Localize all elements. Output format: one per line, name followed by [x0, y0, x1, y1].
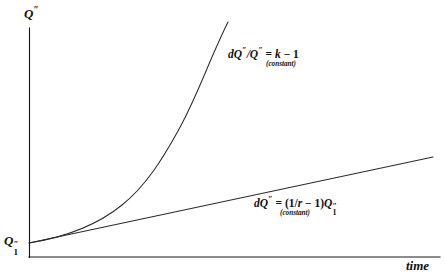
lin-eq-minus-one: − 1) — [302, 197, 324, 209]
exponential-growth-curve — [29, 22, 228, 243]
y-axis-label: Q″ — [24, 6, 39, 20]
linear-growth-line — [29, 157, 433, 243]
growth-diagram-figure: Q″ time Q ″ 1 dQ″/Q″ = k − 1 (constant) … — [0, 0, 445, 275]
lin-eq-q1: Q — [260, 197, 268, 209]
lin-eq-equals: = (1/ — [273, 197, 298, 209]
lin-eq-subscript: 1 — [332, 209, 336, 217]
x-axis-label: time — [406, 259, 429, 272]
lin-eq-q2: Q — [324, 197, 332, 209]
exp-eq-minus-one: − 1 — [281, 48, 299, 60]
origin-label-subscript: 1 — [13, 248, 18, 257]
exp-eq-equals: = — [263, 48, 275, 60]
exponential-equation: dQ″/Q″ = k − 1 — [228, 47, 299, 60]
origin-label-q: Q — [4, 233, 13, 248]
linear-equation: dQ″ = (1/r − 1)Q″1 — [254, 196, 340, 209]
exp-eq-q1: Q — [234, 48, 242, 60]
exponential-curve-annotation: dQ″/Q″ = k − 1 (constant) — [228, 47, 299, 69]
plot-canvas — [0, 0, 445, 275]
linear-qualifier: (constant) — [280, 210, 340, 217]
linear-line-annotation: dQ″ = (1/r − 1)Q″1 (constant) — [254, 196, 340, 218]
exponential-qualifier: (constant) — [266, 61, 299, 68]
origin-value-label: Q ″ 1 — [4, 234, 21, 247]
exp-eq-q2: Q — [250, 48, 258, 60]
